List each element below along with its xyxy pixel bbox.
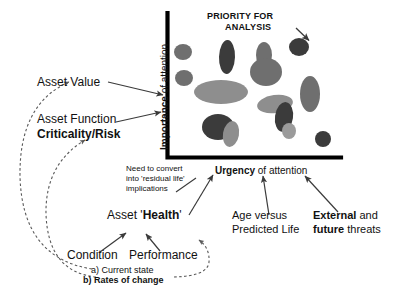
scatter-blob (218, 40, 235, 75)
x-axis-label-rest: of attention (255, 165, 307, 176)
label-age-line2: Predicted Life (232, 223, 299, 235)
y-axis-label-rest: of attention (159, 44, 170, 96)
label-condition: Condition (67, 249, 118, 262)
scatter-blob (175, 70, 193, 86)
priority-annotation-line1: PRIORITY FOR (207, 11, 273, 21)
label-asset-function: Asset Function (37, 113, 116, 126)
arrow-asset-value-to-importance (108, 82, 163, 95)
threats-bold-external: External (313, 209, 356, 221)
asset-health-bold: Health (143, 208, 180, 222)
label-performance: Performance (129, 249, 198, 262)
label-threats-line1: External and (313, 209, 378, 221)
threats-tail: threats (344, 223, 381, 235)
label-asset-health: Asset 'Health' (107, 209, 182, 222)
note-convert-line1: Need to convert (126, 165, 182, 174)
scatter-blob (282, 123, 296, 139)
scatter-blob-group (174, 38, 331, 148)
y-axis-label-bold: Importance (159, 96, 170, 150)
note-convert-line2: into 'residual life' (126, 175, 185, 184)
diagram-graphics (0, 0, 402, 295)
y-axis-label: Importance of attention (159, 44, 170, 150)
diagram-canvas: PRIORITY FOR ANALYSIS Importance of atte… (0, 0, 402, 295)
threats-bold-future: future (313, 223, 344, 235)
scatter-blob (315, 131, 331, 147)
x-axis-label: Urgency of attention (215, 165, 307, 176)
x-axis-label-bold: Urgency (215, 165, 255, 176)
arrow-threats-to-urgency (305, 176, 338, 212)
dashed-state-to-asset-value (20, 82, 92, 269)
asset-health-prefix: Asset ' (107, 208, 143, 222)
label-rates-of-change: b) Rates of change (83, 275, 164, 285)
scatter-blob (289, 38, 309, 56)
label-age-line1: Age versus (232, 209, 287, 221)
note-convert-line3: implications (126, 185, 168, 194)
label-criticality-risk: Criticality/Risk (37, 128, 120, 141)
priority-annotation-line2: ANALYSIS (225, 22, 271, 32)
label-asset-value: Asset Value (37, 76, 100, 89)
scatter-blob (250, 58, 282, 86)
arrow-criticality-to-importance (116, 112, 161, 122)
threats-and: and (356, 209, 377, 221)
label-current-state: a) Current state (91, 265, 154, 275)
scatter-blob (194, 80, 248, 104)
scatter-blob (300, 76, 320, 112)
scatter-blob (174, 44, 192, 60)
asset-health-suffix: ' (179, 208, 181, 222)
label-threats-line2: future threats (313, 223, 381, 235)
